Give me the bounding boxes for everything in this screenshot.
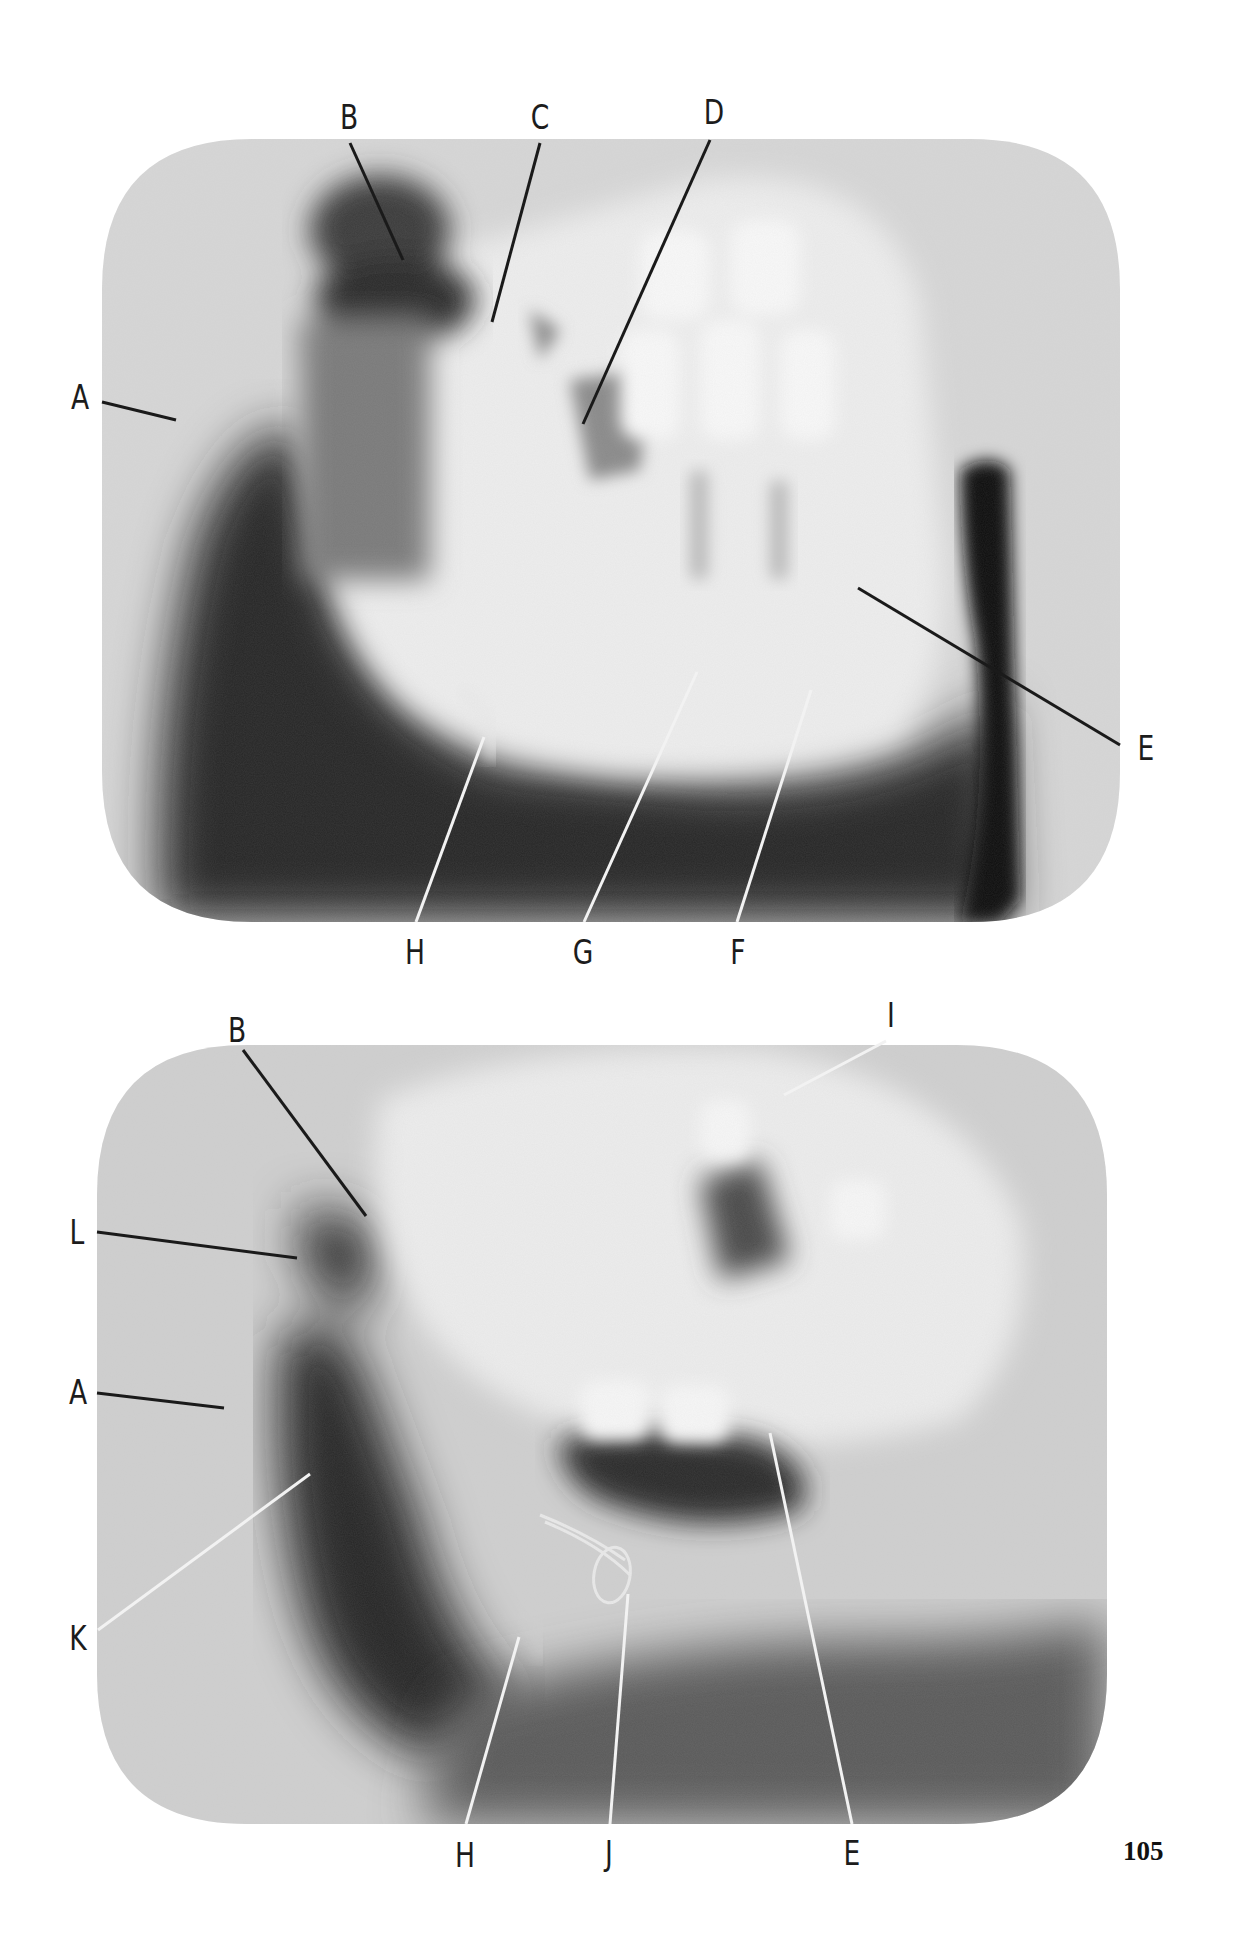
label-g: G [573, 935, 594, 969]
label-h: H [405, 935, 425, 969]
page-number: 105 [1123, 1836, 1164, 1867]
label-b: B [340, 100, 358, 134]
label-h: H [455, 1838, 475, 1872]
label-e: E [1138, 731, 1155, 765]
label-k: K [69, 1621, 86, 1655]
label-b: B [228, 1013, 246, 1047]
bottom-radiograph [97, 1045, 1107, 1824]
label-l: L [70, 1215, 85, 1249]
label-c: C [531, 100, 550, 134]
radiograph-images [0, 0, 1234, 1938]
top-radiograph [102, 139, 1120, 922]
label-f: F [730, 935, 745, 969]
label-j: J [605, 1836, 613, 1870]
label-a: A [71, 380, 89, 414]
label-i: I [887, 998, 895, 1032]
label-e: E [844, 1836, 861, 1870]
radiograph-plate: ABCDEFGHBILAKHJE 105 [0, 0, 1234, 1938]
label-d: D [704, 95, 724, 129]
label-a: A [69, 1375, 87, 1409]
